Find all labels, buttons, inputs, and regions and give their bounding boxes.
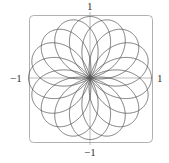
tick-label-x-max: 1: [157, 73, 163, 84]
polar-rose-plot: [0, 0, 169, 163]
tick-label-x-min: −1: [10, 73, 22, 84]
tick-label-y-max: 1: [87, 1, 93, 12]
tick-label-y-min: −1: [84, 147, 96, 158]
